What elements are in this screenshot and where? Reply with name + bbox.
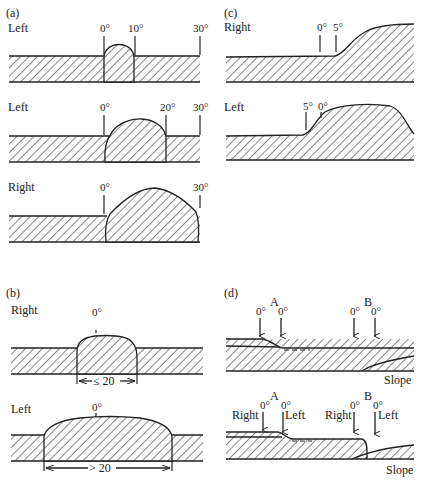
tick-label: 0°	[318, 100, 328, 112]
tick-label: 0°	[92, 306, 102, 318]
dimension-label: > 20	[89, 461, 111, 475]
weld-bead	[77, 336, 137, 374]
panel-a-row-3: Right 0° 30°	[8, 180, 208, 242]
side-label: Left	[378, 408, 399, 422]
dimension-label: ≤ 20	[93, 374, 115, 388]
arrow-label: 0°	[256, 305, 266, 317]
side-label: Right	[325, 408, 352, 422]
point-label-a: A	[270, 389, 279, 403]
side-label: Left	[8, 100, 29, 114]
panel-c-label: (c)	[224, 6, 237, 20]
tick-label: 30°	[193, 101, 208, 113]
panel-b-row-1: Right 0° ≤ 20	[11, 303, 203, 388]
side-label: Right	[224, 20, 251, 34]
weld-bead	[105, 188, 198, 242]
point-label-b: B	[364, 389, 372, 403]
tick-label: 0°	[100, 101, 110, 113]
side-label: Right	[11, 303, 38, 317]
arrow-label: 0°	[371, 305, 381, 317]
weld-bead	[44, 417, 172, 462]
tick-label: 20°	[160, 101, 175, 113]
side-label: Right	[232, 408, 259, 422]
side-label: Right	[8, 180, 35, 194]
caption-slope: Slope	[386, 463, 413, 477]
panel-c-row-2: Left 5° 0°	[224, 100, 414, 160]
side-label: Left	[11, 402, 32, 416]
panel-a: (a) Left 0° 10° 30° Left 0° 20° 30°	[6, 6, 208, 242]
tick-label: 0°	[317, 21, 327, 33]
panel-d-label: (d)	[224, 286, 238, 300]
side-label: Left	[285, 408, 306, 422]
weld-bead	[105, 119, 166, 162]
tick-label: 0°	[92, 401, 102, 413]
tick-label: 0°	[100, 181, 110, 193]
panel-d-row-1: A B 0° 0° 0° 0° Slope	[226, 295, 414, 387]
panel-d: (d) A B 0° 0° 0° 0° Slope A B 0° 0°	[224, 286, 414, 477]
tick-label: 10°	[128, 22, 143, 34]
panel-a-label: (a)	[6, 6, 19, 20]
panel-b-row-2: Left 0° > 20	[11, 401, 203, 475]
panel-d-row-2: A B 0° 0° 0° 0° Right Left Right Left Sl…	[226, 389, 414, 477]
tick-label: 30°	[193, 22, 208, 34]
panel-c-row-1: Right 0° 5°	[224, 20, 414, 82]
side-label: Left	[8, 21, 29, 35]
tick-label: 30°	[193, 181, 208, 193]
side-label: Left	[224, 100, 245, 114]
panel-b: (b) Right 0° ≤ 20 Left 0°	[6, 286, 203, 475]
panel-a-row-1: Left 0° 10° 30°	[8, 21, 208, 82]
arrow-label: 0°	[260, 399, 270, 411]
caption-slope: Slope	[384, 373, 411, 387]
panel-b-label: (b)	[6, 286, 20, 300]
panel-a-row-2: Left 0° 20° 30°	[8, 100, 208, 162]
arrow-label: 0°	[278, 305, 288, 317]
tick-label: 0°	[100, 22, 110, 34]
figure-diagram: (a) Left 0° 10° 30° Left 0° 20° 30°	[0, 0, 423, 482]
tick-label: 5°	[333, 21, 343, 33]
panel-c: (c) Right 0° 5° Left 5° 0°	[224, 6, 414, 160]
arrow-label: 0°	[350, 305, 360, 317]
weld-bead	[104, 45, 134, 83]
tick-label: 5°	[303, 100, 313, 112]
